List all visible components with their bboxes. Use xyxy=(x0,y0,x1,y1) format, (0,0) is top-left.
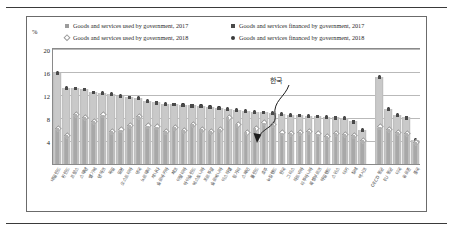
data-point-marker xyxy=(101,92,104,95)
x-axis-label: 일본 xyxy=(115,165,124,211)
data-point-marker xyxy=(405,133,408,136)
series-gap xyxy=(367,49,375,164)
y-axis-tick-label: 4 xyxy=(47,139,50,146)
data-point-marker xyxy=(352,120,355,123)
bottom-divider-rule xyxy=(6,223,447,224)
data-point-marker xyxy=(307,131,310,134)
x-axis-label: 뉴질랜드 xyxy=(268,165,277,211)
legend-item-used-2017: Goods and services used by government, 2… xyxy=(63,20,188,31)
x-axis-label: 체코 xyxy=(169,165,178,211)
data-point-marker xyxy=(128,125,131,128)
bar-group xyxy=(232,49,241,164)
legend-label: Goods and services financed by governmen… xyxy=(239,32,364,43)
data-point-marker xyxy=(396,114,399,117)
bar-inner xyxy=(325,137,328,164)
bar-inner xyxy=(163,132,166,164)
data-point-marker xyxy=(325,116,328,119)
x-axis-label: 헝가리 xyxy=(232,165,241,211)
plot-area: 48121620 xyxy=(52,48,420,165)
bar-group xyxy=(214,49,223,164)
bar-group xyxy=(322,49,331,164)
legend-item-used-2018: Goods and services used by government, 2… xyxy=(63,32,188,43)
x-axis-label: 슬로바키아 xyxy=(160,165,169,211)
x-axis-label: 그리스 xyxy=(286,165,295,211)
data-point-marker xyxy=(56,72,59,75)
data-point-marker xyxy=(119,95,122,98)
data-point-marker xyxy=(155,101,158,104)
data-point-marker xyxy=(172,103,175,106)
y-axis-tick-label: 12 xyxy=(44,93,51,100)
data-point-marker xyxy=(146,126,149,129)
legend-item-financed-2018: Goods and services financed by governmen… xyxy=(229,32,364,43)
bar-inner xyxy=(343,135,346,164)
bar-group xyxy=(358,49,367,164)
bar-inner xyxy=(190,125,193,164)
bar-inner xyxy=(414,143,417,164)
x-axis-label: 스웨덴 xyxy=(79,165,88,211)
x-axis-label: 영국 xyxy=(133,165,142,211)
bar-inner xyxy=(217,130,220,164)
data-point-marker xyxy=(235,124,238,127)
x-axis-label: 아일랜드 xyxy=(322,165,331,211)
data-point-marker xyxy=(217,107,220,110)
x-axis-label: 폴란드 xyxy=(250,165,259,211)
bar-group xyxy=(340,49,349,164)
data-point-marker xyxy=(119,130,122,133)
bar-group xyxy=(62,49,71,164)
x-axis-label: EU 평균 xyxy=(384,165,393,211)
x-axis-label: 스페인 xyxy=(241,165,250,211)
data-point-marker xyxy=(208,106,211,109)
data-point-marker xyxy=(316,134,319,137)
x-axis-label: 스위스 xyxy=(331,165,340,211)
x-axis-label: 미국 xyxy=(393,165,402,211)
data-point-marker xyxy=(190,124,193,127)
bar-group xyxy=(402,49,411,164)
x-axis-label-row: 네덜란드핀란드프랑스스웨덴벨기에덴마크독일일본오스트리아영국노르웨이캐나다슬로바… xyxy=(52,165,420,211)
bar-inner xyxy=(56,129,59,164)
bar-group xyxy=(295,49,304,164)
x-axis-label: 슬로베니아 xyxy=(214,165,223,211)
x-axis-label: 프랑스 xyxy=(70,165,79,211)
bar-inner xyxy=(101,116,104,164)
legend-marker-square-dark-icon xyxy=(229,22,236,29)
x-axis-label: OECD 평균 xyxy=(375,165,384,211)
bar-inner xyxy=(137,117,140,164)
x-axis-label: 리투아니아 xyxy=(304,165,313,211)
x-axis-label: 유로존 xyxy=(402,165,411,211)
data-point-marker xyxy=(155,127,158,130)
x-axis-label: 핀란드 xyxy=(61,165,70,211)
bar-inner xyxy=(110,132,113,164)
legend-label: Goods and services used by government, 2… xyxy=(73,32,188,43)
bar-inner xyxy=(119,131,122,164)
bar-group xyxy=(152,49,161,164)
x-axis-label: 중국 xyxy=(411,165,420,211)
x-axis-label: 칠레 xyxy=(349,165,358,211)
data-point-marker xyxy=(316,115,319,118)
figure-page: % Goods and services used by government,… xyxy=(0,0,453,233)
bar-group xyxy=(89,49,98,164)
bar-group xyxy=(98,49,107,164)
bar-inner xyxy=(226,118,229,164)
bar-group xyxy=(179,49,188,164)
data-point-marker xyxy=(164,131,167,134)
data-point-marker xyxy=(137,116,140,119)
korea-callout-arrow-icon xyxy=(245,81,293,147)
bar-group xyxy=(53,49,62,164)
bar-group xyxy=(71,49,80,164)
data-point-marker xyxy=(298,132,301,135)
x-axis-label: 라트비아 xyxy=(295,165,304,211)
bar-group xyxy=(223,49,232,164)
data-point-marker xyxy=(164,103,167,106)
data-point-marker xyxy=(226,117,229,120)
data-point-marker xyxy=(56,128,59,131)
bar-inner xyxy=(65,136,68,164)
data-point-marker xyxy=(387,129,390,132)
bar-inner xyxy=(208,132,211,164)
data-point-marker xyxy=(343,117,346,120)
y-axis-tick-label: 20 xyxy=(44,47,51,54)
data-point-marker xyxy=(65,87,68,90)
x-axis-label: 호주 xyxy=(259,165,268,211)
data-point-marker xyxy=(334,133,337,136)
bar-inner xyxy=(235,125,238,164)
data-point-marker xyxy=(414,142,417,145)
